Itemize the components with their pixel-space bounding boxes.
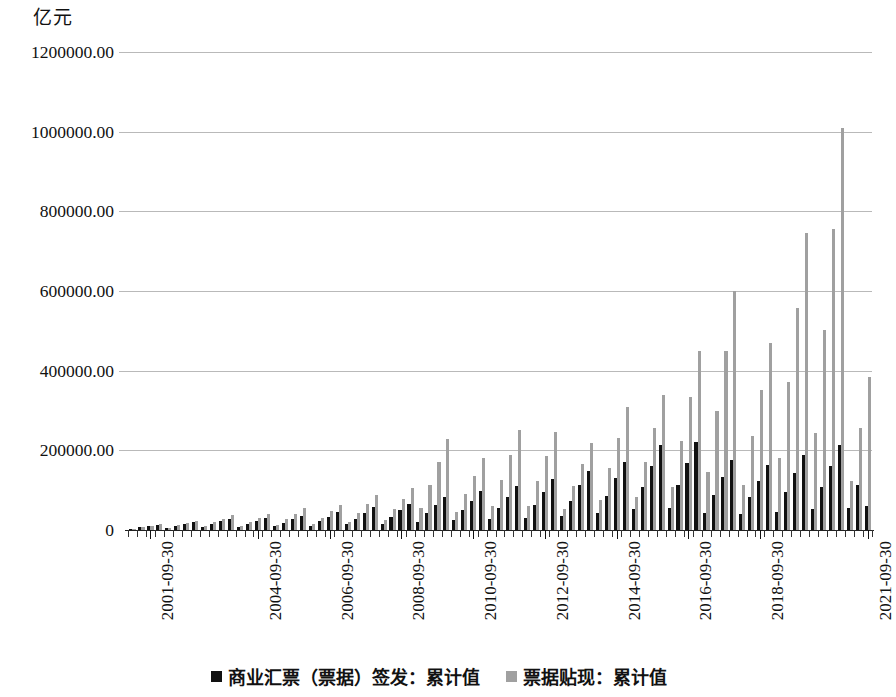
x-axis-tick-label: 2014-09-30: [625, 541, 645, 620]
x-axis-tick-label: 2004-09-30: [266, 541, 286, 620]
x-axis-tick-label: 2018-09-30: [768, 541, 788, 620]
chart-legend: 商业汇票（票据）签发：累计值票据贴现：累计值: [0, 663, 878, 689]
x-axis-tick-label: 2001-09-30: [158, 541, 178, 620]
x-axis-tick-label: 2021-09-30: [876, 541, 896, 620]
x-axis-tick-label: 2012-09-30: [553, 541, 573, 620]
legend-label: 商业汇票（票据）签发：累计值: [228, 663, 480, 689]
legend-swatch-discount: [506, 671, 517, 682]
x-axis-tick-label: 2010-09-30: [481, 541, 501, 620]
legend-label: 票据贴现：累计值: [523, 663, 667, 689]
x-axis-tick-label: 2006-09-30: [338, 541, 358, 620]
legend-item[interactable]: 票据贴现：累计值: [506, 663, 667, 689]
x-axis-tick-label: 2016-09-30: [696, 541, 716, 620]
legend-item[interactable]: 商业汇票（票据）签发：累计值: [211, 663, 480, 689]
x-axis-tick-label: 2008-09-30: [409, 541, 429, 620]
legend-swatch-issue: [211, 671, 222, 682]
